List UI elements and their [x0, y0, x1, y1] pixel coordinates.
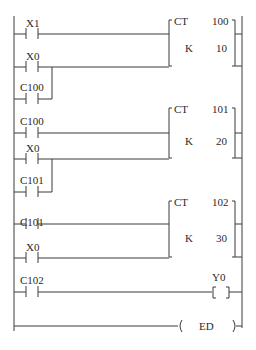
contact-c100-parallel[interactable]: C100	[14, 67, 52, 104]
rung-1: X1 X0 C100 CT	[14, 15, 242, 104]
counter-number: 102	[212, 196, 229, 208]
counter-number: 100	[212, 15, 229, 27]
rung-5: ED	[14, 320, 242, 332]
k-value: 30	[216, 232, 228, 244]
contact-label: C100	[20, 81, 44, 93]
contact-c101-parallel[interactable]: C101	[14, 159, 52, 197]
end-instruction[interactable]: ED	[180, 320, 242, 332]
contact-c102[interactable]: C102	[14, 274, 212, 297]
coil-y0[interactable]: Y0	[212, 271, 242, 298]
rung-3: C101 X0 CT 102 K 30	[14, 196, 242, 263]
rung-2: C100 X0 C101 CT 101 K	[14, 103, 242, 197]
k-label: K	[185, 232, 193, 244]
ladder-diagram: X1 X0 C100 CT	[0, 0, 256, 350]
contact-label: C100	[20, 115, 44, 127]
k-label: K	[185, 135, 193, 147]
contact-label: X0	[26, 142, 40, 154]
contact-label: X1	[26, 17, 39, 29]
k-value: 20	[216, 135, 228, 147]
counter-number: 101	[212, 103, 229, 115]
contact-x0[interactable]: X0	[14, 142, 169, 164]
coil-label: Y0	[212, 271, 226, 283]
counter-ct101[interactable]: CT 101 K 20	[169, 103, 242, 158]
contact-label: C101	[20, 216, 44, 228]
rung-4: C102 Y0	[14, 271, 242, 298]
counter-instruction: CT	[174, 103, 188, 115]
contact-x0[interactable]: X0	[14, 241, 169, 263]
end-label: ED	[199, 320, 214, 332]
counter-ct100[interactable]: CT 100 K 10	[169, 15, 242, 66]
counter-instruction: CT	[174, 196, 188, 208]
contact-label: C101	[20, 174, 44, 186]
contact-label: X0	[26, 50, 40, 62]
counter-ct102[interactable]: CT 102 K 30	[169, 196, 242, 257]
contact-label: X0	[26, 241, 40, 253]
contact-label: C102	[20, 274, 44, 286]
contact-c100[interactable]: C100	[14, 115, 169, 138]
counter-instruction: CT	[174, 15, 188, 27]
k-label: K	[185, 42, 193, 54]
contact-x1[interactable]: X1	[14, 17, 169, 39]
contact-x0[interactable]: X0	[14, 50, 169, 72]
k-value: 10	[216, 42, 228, 54]
contact-c101[interactable]: C101	[14, 216, 169, 229]
